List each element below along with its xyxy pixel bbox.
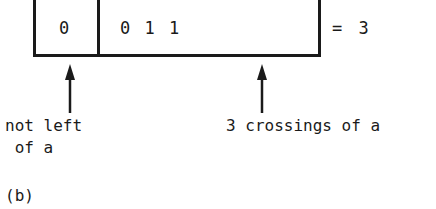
arrows-layer (0, 0, 436, 209)
left-annotation-line2: of a (5, 138, 53, 158)
left-annotation-line1: not left (5, 116, 82, 136)
right-annotation: 3 crossings of a (226, 116, 380, 136)
arrow-up-icon-right (257, 64, 267, 113)
arrow-up-icon-left (65, 64, 75, 113)
figure-caption: (b) (5, 186, 34, 206)
